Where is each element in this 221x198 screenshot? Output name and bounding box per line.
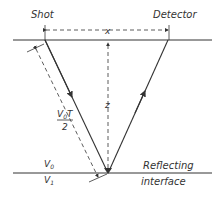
reflected-ray-arrow xyxy=(135,91,145,113)
incident-ray-arrow xyxy=(45,40,72,97)
offset-label: x xyxy=(104,26,111,36)
path-tick-top xyxy=(27,44,44,52)
depth-label: z xyxy=(104,100,110,110)
svg-text:V0T: V0T xyxy=(57,109,74,120)
interface-label: interface xyxy=(141,176,186,187)
reflection-diagram: Shot Detector x z V0T 2 V0 V1 Reflecting… xyxy=(0,0,221,198)
path-tick-bottom xyxy=(89,174,107,182)
detector-label: Detector xyxy=(153,9,197,20)
v0-label: V0 xyxy=(44,159,54,170)
shot-label: Shot xyxy=(31,9,55,20)
path-length-label: V0T 2 xyxy=(57,109,74,132)
svg-text:2: 2 xyxy=(62,122,68,132)
v1-label: V1 xyxy=(44,175,54,186)
reflecting-label: Reflecting xyxy=(143,160,194,171)
